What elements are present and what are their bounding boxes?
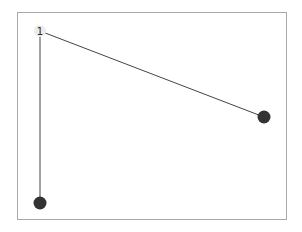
graph-canvas: 1: [0, 0, 302, 232]
node-2[interactable]: [258, 111, 271, 124]
node-1-label: 1: [37, 26, 43, 37]
edge-1-2: [40, 31, 264, 117]
node-1[interactable]: 1: [34, 25, 46, 37]
node-3[interactable]: [34, 197, 47, 210]
